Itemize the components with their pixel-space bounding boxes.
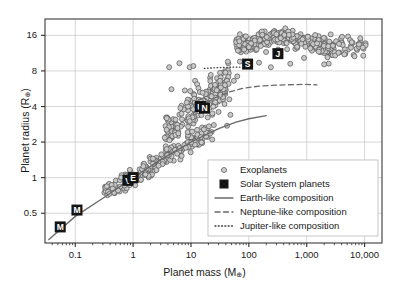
solar-system-label-neptune: N: [201, 103, 207, 113]
legend-marker-exoplanets: [222, 168, 227, 173]
exoplanet-point: [235, 48, 240, 53]
exoplanet-point: [200, 90, 205, 95]
exoplanet-point: [227, 97, 232, 102]
exoplanet-point: [127, 167, 132, 172]
exoplanet-point: [182, 88, 187, 93]
exoplanet-point: [205, 115, 210, 120]
exoplanet-point: [218, 70, 223, 75]
exoplanet-point: [328, 32, 333, 37]
exoplanet-point: [104, 184, 109, 189]
exoplanet-point: [211, 123, 216, 128]
exoplanet-point: [235, 74, 240, 79]
exoplanet-point: [342, 52, 347, 57]
x-tick-label: 0.1: [50, 249, 100, 260]
exoplanet-point: [360, 45, 365, 50]
exoplanet-point: [322, 62, 327, 67]
x-tick-label: 1: [108, 249, 158, 260]
exoplanet-point: [336, 50, 341, 55]
exoplanet-point: [326, 61, 331, 66]
exoplanet-point: [188, 89, 193, 94]
exoplanet-point: [237, 39, 242, 44]
exoplanet-point: [286, 32, 291, 37]
exoplanet-point: [184, 100, 189, 105]
exoplanet-point: [327, 39, 332, 44]
exoplanet-point: [213, 82, 218, 87]
exoplanet-point: [285, 47, 290, 52]
exoplanet-point: [188, 150, 193, 155]
exoplanet-point: [176, 131, 181, 136]
solar-system-label-earth: E: [130, 173, 136, 183]
exoplanet-point: [325, 55, 330, 60]
exoplanet-point: [175, 126, 180, 131]
exoplanet-point: [164, 147, 169, 152]
exoplanet-point: [208, 72, 213, 77]
x-tick-label: 10: [166, 249, 216, 260]
exoplanet-point: [242, 47, 247, 52]
legend-label: Exoplanets: [240, 164, 287, 175]
exoplanet-point: [167, 65, 172, 70]
exoplanet-point: [214, 88, 219, 93]
exoplanet-point: [257, 60, 262, 65]
exoplanet-point: [243, 34, 248, 39]
exoplanet-point: [164, 116, 169, 121]
exoplanet-point: [268, 65, 273, 70]
exoplanet-point: [208, 79, 213, 84]
exoplanet-point: [225, 59, 230, 64]
exoplanet-point: [264, 35, 269, 40]
exoplanet-point: [231, 78, 236, 83]
legend-label: Solar System planets: [240, 178, 330, 189]
exoplanet-point: [173, 117, 178, 122]
exoplanet-point: [190, 129, 195, 134]
exoplanet-point: [278, 36, 283, 41]
exoplanet-point: [299, 41, 304, 46]
exoplanet-point: [223, 70, 228, 75]
x-tick-label: 100: [224, 249, 274, 260]
plot-canvas: MMVEUNSJExoplanetsSolar System planetsEa…: [0, 0, 409, 288]
exoplanet-point: [288, 61, 293, 66]
y-tick-label: 4: [9, 101, 37, 112]
exoplanet-point: [358, 36, 363, 41]
y-tick-label: 8: [9, 65, 37, 76]
exoplanet-point: [305, 34, 310, 39]
exoplanet-point: [201, 127, 206, 132]
legend-label: Jupiter-like composition: [240, 220, 339, 231]
x-axis-title: Planet mass (M⊕): [0, 266, 409, 279]
exoplanet-point: [210, 111, 215, 116]
exoplanet-point: [321, 35, 326, 40]
exoplanet-point: [222, 102, 227, 107]
y-tick-label: 2: [9, 136, 37, 147]
exoplanet-point: [186, 124, 191, 129]
exoplanet-point: [274, 32, 279, 37]
exoplanet-point: [187, 119, 192, 124]
exoplanet-point: [336, 41, 341, 46]
composition-curve-dotted: [204, 67, 240, 68]
y-tick-label: 1: [9, 172, 37, 183]
exoplanet-point: [162, 135, 167, 140]
exoplanet-point: [199, 140, 204, 145]
exoplanet-point: [156, 163, 161, 168]
exoplanet-point: [177, 61, 182, 66]
exoplanet-point: [141, 164, 146, 169]
solar-system-label-jupiter: J: [276, 49, 281, 59]
exoplanet-point: [257, 38, 262, 43]
exoplanet-point: [195, 127, 200, 132]
exoplanet-point: [284, 41, 289, 46]
exoplanet-point: [237, 59, 242, 64]
exoplanet-point: [326, 44, 331, 49]
exoplanet-point: [178, 106, 183, 111]
exoplanet-point: [237, 32, 242, 37]
exoplanet-point: [150, 156, 155, 161]
exoplanet-mass-radius-figure: MMVEUNSJExoplanetsSolar System planetsEa…: [0, 0, 409, 288]
solar-system-label-mars: M: [73, 205, 80, 215]
exoplanet-point: [211, 104, 216, 109]
solar-system-label-mercury: M: [57, 222, 64, 232]
exoplanet-point: [340, 34, 345, 39]
exoplanet-point: [179, 117, 184, 122]
exoplanet-point: [361, 53, 366, 58]
exoplanet-point: [167, 138, 172, 143]
exoplanet-point: [315, 41, 320, 46]
legend-label: Neptune-like composition: [240, 206, 347, 217]
exoplanet-point: [216, 109, 221, 114]
exoplanet-point: [191, 64, 196, 69]
exoplanet-point: [179, 111, 184, 116]
